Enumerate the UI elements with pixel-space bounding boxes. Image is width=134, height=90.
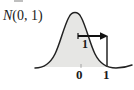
normal-distribution-figure: N(0, 1) 1 0 1 [0, 0, 134, 90]
distribution-symbol: N [3, 8, 12, 23]
distribution-close-paren: ) [38, 8, 43, 23]
distribution-mean: 0 [17, 8, 24, 23]
normal-curve-fill [38, 13, 112, 68]
sd-arrow-label: 1 [82, 38, 88, 50]
distribution-comma: , [24, 8, 31, 23]
distribution-label: N(0, 1) [3, 9, 43, 23]
distribution-variance: 1 [31, 8, 38, 23]
axis-tick-label-1: 1 [103, 68, 110, 81]
axis-tick-label-0: 0 [76, 68, 83, 81]
